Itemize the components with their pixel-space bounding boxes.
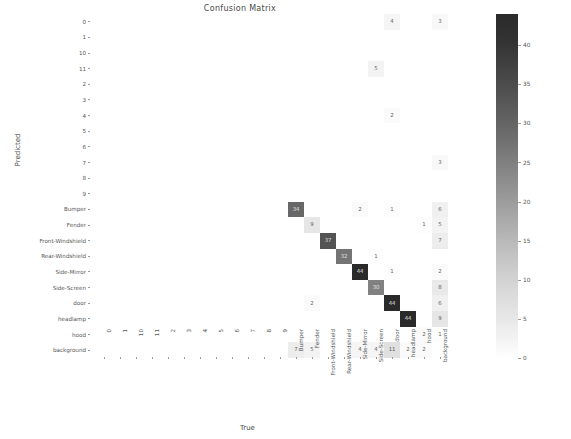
heatmap-cell: 0 <box>192 170 208 186</box>
heatmap-cell: 0 <box>272 264 288 280</box>
heatmap-cell: 0 <box>224 264 240 280</box>
heatmap-cell: 0 <box>128 45 144 61</box>
heatmap-cell-value: 3 <box>438 19 441 24</box>
heatmap-cell: 0 <box>96 295 112 311</box>
heatmap-cell: 0 <box>96 14 112 30</box>
heatmap-cell: 0 <box>368 202 384 218</box>
heatmap-cell: 5 <box>432 217 448 233</box>
heatmap-cell: 0 <box>416 123 432 139</box>
heatmap-cell: 0 <box>288 139 304 155</box>
heatmap-cell: 0 <box>416 61 432 77</box>
x-tick-label: door <box>384 360 400 434</box>
heatmap-cell: 0 <box>224 295 240 311</box>
heatmap-cell: 0 <box>304 108 320 124</box>
heatmap-cell: 1 <box>384 264 400 280</box>
heatmap-cell: 0 <box>208 123 224 139</box>
heatmap-cell: 9 <box>304 217 320 233</box>
heatmap-cell: 0 <box>192 30 208 46</box>
heatmap-cell: 0 <box>272 61 288 77</box>
heatmap-cell: 0 <box>272 280 288 296</box>
heatmap-cell: 1 <box>368 249 384 265</box>
heatmap-cell: 0 <box>224 170 240 186</box>
heatmap-cell: 0 <box>176 77 192 93</box>
heatmap-cell: 0 <box>352 155 368 171</box>
heatmap-cell: 0 <box>240 202 256 218</box>
heatmap-cell: 0 <box>304 123 320 139</box>
heatmap-cell: 0 <box>416 202 432 218</box>
heatmap-cell-value: 3 <box>438 160 441 165</box>
heatmap-cell: 0 <box>336 139 352 155</box>
heatmap-cell: 0 <box>144 202 160 218</box>
confusion-matrix-figure: Confusion Matrix Predicted True 01101123… <box>0 0 571 439</box>
heatmap-cell: 0 <box>336 123 352 139</box>
heatmap-cell: 0 <box>240 61 256 77</box>
heatmap-cell: 0 <box>400 108 416 124</box>
heatmap-cell: 0 <box>128 139 144 155</box>
heatmap-cell: 0 <box>320 202 336 218</box>
heatmap-cell: 0 <box>368 123 384 139</box>
heatmap-cell: 32 <box>336 249 352 265</box>
heatmap-cell: 0 <box>128 155 144 171</box>
heatmap-cell: 0 <box>112 233 128 249</box>
heatmap-cell: 0 <box>208 108 224 124</box>
heatmap-cell: 0 <box>96 186 112 202</box>
heatmap-cell: 0 <box>256 217 272 233</box>
heatmap-cell: 0 <box>176 280 192 296</box>
heatmap-cell: 0 <box>416 186 432 202</box>
heatmap-cell: 0 <box>224 139 240 155</box>
heatmap-cell: 0 <box>144 77 160 93</box>
heatmap-cell-value: 1 <box>422 222 425 227</box>
heatmap-cell: 1 <box>384 202 400 218</box>
heatmap-cell: 0 <box>272 170 288 186</box>
heatmap-cell-value: 44 <box>389 301 396 306</box>
y-tick-label: 10 <box>0 45 94 61</box>
heatmap-cell: 0 <box>160 30 176 46</box>
heatmap-cell: 0 <box>384 186 400 202</box>
heatmap-cell: 0 <box>288 264 304 280</box>
y-tick-label: Bumper <box>0 202 94 218</box>
heatmap-cell: 0 <box>96 108 112 124</box>
heatmap-cell: 0 <box>224 233 240 249</box>
heatmap-cell: 0 <box>112 30 128 46</box>
heatmap-cell: 0 <box>384 139 400 155</box>
heatmap-cell: 0 <box>208 295 224 311</box>
x-tick-label: Front-Windshield <box>320 360 336 434</box>
heatmap-cell: 0 <box>176 139 192 155</box>
heatmap-cell: 0 <box>320 14 336 30</box>
x-tick-label: 7 <box>240 360 256 434</box>
heatmap-cell: 0 <box>256 295 272 311</box>
heatmap-cell: 0 <box>336 30 352 46</box>
heatmap-cell: 0 <box>112 92 128 108</box>
heatmap-cell: 0 <box>432 170 448 186</box>
heatmap-cell: 44 <box>352 264 368 280</box>
heatmap-cell: 6 <box>432 202 448 218</box>
heatmap-cell: 0 <box>160 217 176 233</box>
heatmap-cell: 0 <box>432 249 448 265</box>
heatmap-cell: 0 <box>208 61 224 77</box>
heatmap-cell-value: 1 <box>390 269 393 274</box>
heatmap-cell: 0 <box>192 14 208 30</box>
y-tick-label: 7 <box>0 155 94 171</box>
heatmap-cell: 0 <box>256 280 272 296</box>
heatmap-cell: 0 <box>288 295 304 311</box>
heatmap-cell: 0 <box>256 108 272 124</box>
heatmap-cell: 0 <box>208 217 224 233</box>
heatmap-cell: 0 <box>192 264 208 280</box>
heatmap-cell: 0 <box>192 186 208 202</box>
heatmap-cell: 0 <box>256 264 272 280</box>
heatmap-cell: 0 <box>208 170 224 186</box>
heatmap-cell: 0 <box>320 295 336 311</box>
heatmap-cell: 0 <box>304 92 320 108</box>
heatmap-cell: 0 <box>192 77 208 93</box>
heatmap-cell: 0 <box>352 217 368 233</box>
heatmap-cell: 0 <box>256 123 272 139</box>
heatmap-cell: 0 <box>96 249 112 265</box>
heatmap-cell: 0 <box>320 45 336 61</box>
heatmap-cell: 0 <box>144 14 160 30</box>
heatmap-cell: 0 <box>176 295 192 311</box>
heatmap-cell: 0 <box>384 155 400 171</box>
heatmap-cell: 0 <box>336 295 352 311</box>
heatmap-cell: 0 <box>320 139 336 155</box>
heatmap-cell: 0 <box>112 186 128 202</box>
heatmap-cell: 0 <box>112 14 128 30</box>
